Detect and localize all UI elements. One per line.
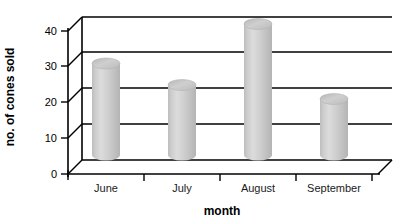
y-tick-label-30: 30 — [45, 60, 57, 72]
x-tick-label-september: September — [307, 182, 361, 194]
y-axis-ticks — [61, 31, 68, 174]
bar-chart: 40 30 20 10 0 — [0, 0, 405, 224]
bar-august-top — [244, 19, 272, 30]
bar-september-body — [320, 99, 348, 155]
y-tick-label-20: 20 — [45, 96, 57, 108]
depth-line-20 — [68, 88, 82, 102]
y-tick-label-0: 0 — [51, 168, 57, 180]
depth-line-10 — [68, 124, 82, 138]
bars — [92, 19, 348, 161]
y-tick-label-40: 40 — [45, 25, 57, 37]
chart-canvas: 40 30 20 10 0 — [0, 0, 405, 224]
bar-june — [92, 58, 120, 161]
x-tick-label-june: June — [94, 182, 118, 194]
depth-line-right — [378, 160, 392, 174]
bar-september — [320, 94, 348, 161]
depth-line-30 — [68, 52, 82, 66]
bar-july — [168, 80, 196, 161]
bar-august-body — [244, 24, 272, 155]
bar-august — [244, 19, 272, 161]
y-axis-tick-labels: 40 30 20 10 0 — [45, 25, 57, 180]
bar-june-body — [92, 64, 120, 156]
bar-july-top — [168, 80, 196, 91]
bar-july-body — [168, 85, 196, 155]
depth-line-0 — [68, 160, 82, 174]
y-axis-title: no. of cones sold — [3, 48, 17, 147]
x-tick-label-august: August — [241, 182, 275, 194]
x-axis-tick-labels: June July August September — [94, 182, 361, 194]
bar-september-top — [320, 94, 348, 105]
x-axis-title: month — [204, 204, 241, 218]
bar-june-top — [92, 58, 120, 69]
y-tick-label-10: 10 — [45, 132, 57, 144]
x-tick-label-july: July — [172, 182, 192, 194]
depth-line-40 — [68, 17, 82, 31]
x-axis-ticks — [68, 170, 372, 181]
